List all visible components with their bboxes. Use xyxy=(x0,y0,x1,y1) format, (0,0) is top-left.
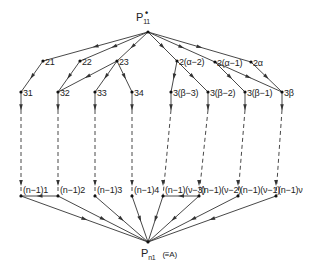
rown1-node-label: (n−1)(ν−2) xyxy=(201,186,241,195)
rown1-node-label: (n−1)4 xyxy=(134,186,159,195)
arrowhead-icon xyxy=(280,104,284,110)
row3-node-label: 3(β−3) xyxy=(173,89,198,98)
rown1-node-label: (n−1)ν xyxy=(278,186,303,195)
node-dot xyxy=(146,240,149,243)
arrowhead-icon xyxy=(169,104,173,110)
arrowhead-icon xyxy=(56,104,60,110)
arrowhead-icon xyxy=(190,216,196,220)
arrowhead-icon xyxy=(243,104,247,110)
edge xyxy=(199,110,208,196)
row3-node-label: 3β xyxy=(284,89,294,98)
arrowhead-icon xyxy=(81,216,87,220)
arrowhead-icon xyxy=(130,104,134,110)
arrowhead-icon xyxy=(155,216,159,222)
node-dot xyxy=(146,30,149,33)
row3-node-label: 33 xyxy=(97,89,107,98)
rown1-node-label: (n−1)1 xyxy=(23,186,48,195)
arrowhead-icon xyxy=(93,44,99,47)
arrowhead-icon xyxy=(209,216,215,220)
edge xyxy=(276,110,282,196)
arrowhead-icon xyxy=(30,73,35,79)
row3-node-label: 32 xyxy=(60,89,70,98)
row2-node-label: 21 xyxy=(45,58,55,67)
arrowhead-icon xyxy=(19,104,23,110)
row2-node-label: 2(α−1) xyxy=(217,59,242,68)
row2-node-label: 22 xyxy=(82,58,92,67)
row2-node-label: 2α xyxy=(253,59,263,68)
row3-node-label: 3(β−1) xyxy=(247,89,272,98)
arrowhead-icon xyxy=(93,104,97,110)
sink-label-sub: n1 xyxy=(148,254,155,261)
row3-node-label: 3(β−2) xyxy=(210,89,235,98)
source-node-label: P11• xyxy=(136,12,153,23)
arrowhead-icon xyxy=(196,44,202,47)
arrowhead-icon xyxy=(206,104,210,110)
arrowhead-icon xyxy=(67,73,72,79)
arrowhead-icon xyxy=(85,74,91,78)
row2-node-label: 23 xyxy=(119,58,129,67)
rown1-node-label: (n−1)2 xyxy=(60,186,85,195)
edge xyxy=(163,110,171,196)
row2-node-label: 2(α−2) xyxy=(179,58,204,67)
arrowhead-icon xyxy=(104,73,109,79)
source-label-sub: 11 xyxy=(143,18,150,25)
rown1-node-label: (n−1)3 xyxy=(97,186,122,195)
arrowhead-icon xyxy=(137,216,141,222)
row3-node-label: 34 xyxy=(134,89,144,98)
path-lattice-diagram: P11• Pn1 (≡A) 2122232(α−2)2(α−1)2α313233… xyxy=(0,0,312,274)
row3-node-label: 31 xyxy=(23,89,33,98)
rown1-node-label: (n−1)(ν−3) xyxy=(165,186,205,195)
arrowhead-icon xyxy=(122,73,126,79)
arrowhead-icon xyxy=(100,216,106,220)
arrowhead-icon xyxy=(245,74,251,78)
sink-node-label: Pn1 (≡A) xyxy=(141,248,177,259)
edge xyxy=(238,110,245,196)
source-label-star: • xyxy=(145,8,148,18)
rown1-node-label: (n−1)(ν−1) xyxy=(240,186,280,195)
sink-note: (≡A) xyxy=(162,250,177,259)
graph-edges xyxy=(0,0,312,274)
arrowhead-icon xyxy=(111,44,117,48)
arrowhead-icon xyxy=(178,44,184,48)
